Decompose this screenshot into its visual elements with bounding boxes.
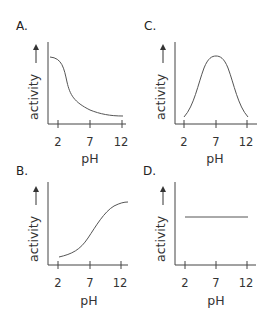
tick-label: 2 bbox=[54, 135, 61, 149]
x-axis-title: pH bbox=[206, 151, 223, 166]
x-axis-title: pH bbox=[207, 293, 224, 308]
panel-c: C. 2 7 12 pH activity bbox=[144, 19, 257, 166]
panel-b: B. 2 7 12 pH activity bbox=[16, 164, 128, 308]
tick-label: 2 bbox=[180, 135, 187, 149]
figure: A. 2 7 12 pH activity C. 2 7 12 pH activ… bbox=[0, 0, 265, 325]
panel-label-d: D. bbox=[143, 164, 156, 178]
tick-label: 12 bbox=[114, 135, 129, 149]
y-axis-title: activity bbox=[26, 215, 41, 262]
tick-label: 2 bbox=[54, 276, 61, 290]
tick-label: 12 bbox=[113, 276, 128, 290]
x-axis-title: pH bbox=[81, 151, 98, 166]
curve-c bbox=[184, 56, 248, 117]
panel-d: D. 2 7 12 pH activity bbox=[143, 164, 256, 308]
curve-b bbox=[59, 202, 128, 257]
panel-label-b: B. bbox=[16, 164, 28, 178]
tick-label: 2 bbox=[181, 276, 188, 290]
panel-a: A. 2 7 12 pH activity bbox=[16, 19, 128, 166]
panel-label-c: C. bbox=[144, 19, 156, 33]
y-axis-title: activity bbox=[153, 215, 168, 262]
x-axis-title: pH bbox=[80, 293, 97, 308]
tick-label: 7 bbox=[212, 276, 219, 290]
tick-label: 12 bbox=[239, 135, 254, 149]
y-axis-title: activity bbox=[153, 73, 168, 120]
panel-label-a: A. bbox=[16, 19, 28, 33]
tick-label: 7 bbox=[86, 276, 93, 290]
tick-label: 12 bbox=[239, 276, 254, 290]
y-axis-title: activity bbox=[26, 73, 41, 120]
tick-label: 7 bbox=[212, 135, 219, 149]
tick-label: 7 bbox=[86, 135, 93, 149]
curve-a bbox=[50, 57, 123, 116]
